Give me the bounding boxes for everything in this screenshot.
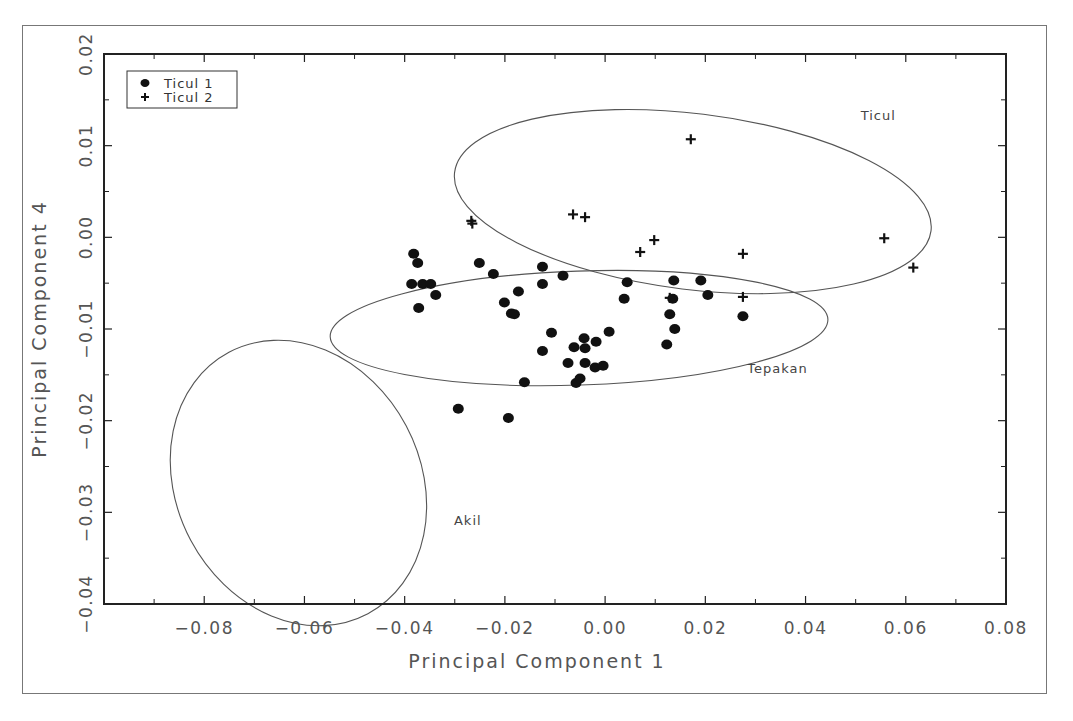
circle-marker bbox=[563, 358, 574, 368]
circle-marker bbox=[413, 303, 424, 313]
circle-marker bbox=[513, 286, 524, 296]
plus-marker bbox=[649, 235, 659, 245]
x-tick-label: −0.02 bbox=[475, 618, 535, 638]
circle-marker bbox=[669, 324, 680, 334]
confidence-ellipses: TiculTepakanAkil bbox=[121, 85, 942, 671]
scatter-plot: TiculTepakanAkil −0.08−0.06−0.04−0.020.0… bbox=[0, 0, 1073, 721]
y-tick-label: −0.02 bbox=[76, 391, 96, 451]
circle-marker bbox=[453, 404, 464, 414]
ellipse-label-akil: Akil bbox=[454, 513, 482, 528]
circle-marker bbox=[598, 361, 609, 371]
y-tick-label: −0.03 bbox=[76, 483, 96, 543]
plus-marker bbox=[738, 249, 748, 259]
circle-marker bbox=[425, 279, 436, 289]
circle-marker bbox=[406, 279, 417, 289]
legend-label: Ticul 1 bbox=[163, 76, 214, 91]
circle-marker bbox=[537, 262, 548, 272]
legend-label: Ticul 2 bbox=[163, 90, 214, 105]
circle-marker bbox=[519, 377, 530, 387]
circle-marker bbox=[558, 271, 569, 281]
circle-marker bbox=[702, 290, 713, 300]
circle-marker bbox=[580, 343, 591, 353]
circle-marker bbox=[737, 311, 748, 321]
x-tick-label: 0.06 bbox=[884, 618, 928, 638]
circle-marker bbox=[546, 328, 557, 338]
circle-marker bbox=[604, 327, 615, 337]
plus-marker bbox=[686, 134, 696, 144]
circle-marker bbox=[579, 333, 590, 343]
y-tick-label: −0.04 bbox=[76, 574, 96, 634]
circle-marker bbox=[619, 294, 630, 304]
x-tick-label: −0.06 bbox=[275, 618, 335, 638]
legend: Ticul 1Ticul 2 bbox=[127, 71, 237, 108]
circle-marker bbox=[668, 275, 679, 285]
ellipse-akil bbox=[121, 295, 475, 671]
plus-marker bbox=[580, 212, 590, 222]
legend-circle-icon bbox=[141, 79, 150, 87]
ellipse-label-ticul: Ticul bbox=[860, 108, 896, 123]
circle-marker bbox=[580, 358, 591, 368]
x-tick-label: −0.08 bbox=[174, 618, 234, 638]
circle-marker bbox=[622, 277, 633, 287]
circle-marker bbox=[664, 309, 675, 319]
circle-marker bbox=[430, 290, 441, 300]
circle-marker bbox=[695, 275, 706, 285]
x-tick-label: 0.00 bbox=[583, 618, 627, 638]
plus-marker bbox=[879, 233, 889, 243]
x-tick-label: 0.04 bbox=[784, 618, 828, 638]
y-tick-label: 0.00 bbox=[76, 215, 96, 259]
ellipse-label-tepakan: Tepakan bbox=[746, 361, 807, 376]
circle-marker bbox=[474, 258, 485, 268]
circle-marker bbox=[537, 346, 548, 356]
circle-marker bbox=[499, 297, 510, 307]
circle-marker bbox=[408, 249, 419, 259]
y-tick-label: 0.01 bbox=[76, 124, 96, 168]
circle-marker bbox=[575, 374, 586, 384]
plus-marker bbox=[908, 263, 918, 273]
plus-marker bbox=[635, 247, 645, 257]
y-tick-label: 0.02 bbox=[76, 32, 96, 76]
circle-marker bbox=[591, 337, 602, 347]
circle-marker bbox=[661, 340, 672, 350]
circle-marker bbox=[569, 342, 580, 352]
x-tick-label: −0.04 bbox=[375, 618, 435, 638]
x-axis-title: Principal Component 1 bbox=[408, 650, 665, 672]
x-tick-label: 0.08 bbox=[984, 618, 1028, 638]
y-axis-title: Principal Component 4 bbox=[28, 200, 50, 457]
circle-marker bbox=[488, 269, 499, 279]
circle-marker bbox=[503, 413, 514, 423]
x-tick-label: 0.02 bbox=[683, 618, 727, 638]
plus-marker bbox=[568, 209, 578, 219]
circle-marker bbox=[537, 279, 548, 289]
circle-marker bbox=[412, 258, 423, 268]
circle-marker bbox=[509, 309, 520, 319]
y-tick-label: −0.01 bbox=[76, 299, 96, 359]
